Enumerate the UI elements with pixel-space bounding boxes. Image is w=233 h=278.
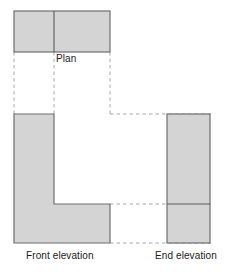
end-elevation-view (167, 114, 210, 243)
plan-outline (14, 11, 110, 52)
plan-view (14, 11, 110, 52)
orthographic-projection-svg (0, 0, 233, 278)
plan-label: Plan (56, 53, 76, 64)
end-elevation-label: End elevation (155, 250, 217, 261)
front-elevation-view (14, 114, 110, 243)
end-elevation-outline (167, 114, 210, 243)
orthographic-drawing: Plan Front elevation End elevation (0, 0, 233, 278)
front-elevation-label: Front elevation (26, 250, 94, 261)
front-elevation-outline (14, 114, 110, 243)
